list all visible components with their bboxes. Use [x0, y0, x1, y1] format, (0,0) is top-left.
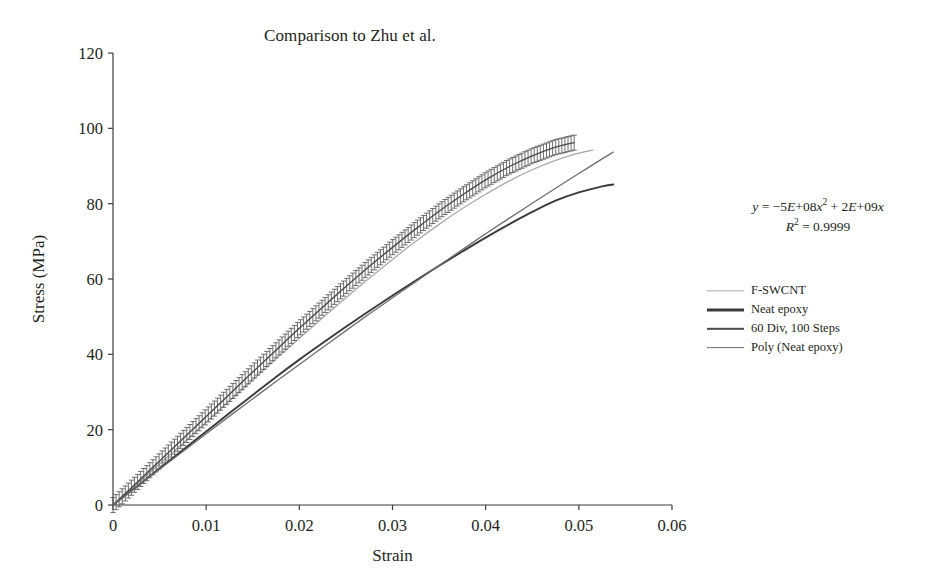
- equation-line-1: y = −5E+08x2 + 2E+09x: [718, 196, 918, 216]
- x-axis-tick-label: 0.05: [564, 516, 593, 535]
- chart-figure: Comparison to Zhu et al. 020406080100120…: [0, 0, 939, 583]
- legend-item[interactable]: Neat epoxy: [707, 300, 917, 319]
- error-bars-group: [110, 135, 576, 512]
- series-group: [110, 135, 613, 512]
- legend-item[interactable]: 60 Div, 100 Steps: [707, 319, 917, 338]
- series-neat-epoxy: [113, 184, 613, 505]
- series-60-div-100-steps: [110, 135, 576, 512]
- x-axis-tick-label: 0.03: [378, 516, 407, 535]
- x-axis-tick-label: 0.06: [658, 516, 687, 535]
- legend-item[interactable]: F-SWCNT: [707, 281, 917, 300]
- x-axis-tick-label: 0.01: [192, 516, 221, 535]
- y-axis-tick-label: 100: [78, 119, 103, 138]
- legend-item-label: F-SWCNT: [751, 283, 806, 298]
- legend-item-label: 60 Div, 100 Steps: [751, 321, 840, 336]
- y-axis-tick-label: 20: [87, 421, 104, 440]
- series-f-swcnt: [113, 150, 593, 505]
- x-axis-title: Strain: [372, 546, 413, 565]
- legend-item[interactable]: Poly (Neat epoxy): [707, 338, 917, 357]
- y-axis-tick-label: 60: [87, 270, 104, 289]
- y-axis-tick-label: 80: [87, 195, 104, 214]
- legend-item-label: Neat epoxy: [751, 302, 808, 317]
- y-axis-tick-label: 120: [78, 44, 103, 63]
- equation-line-2: R2 = 0.9999: [718, 216, 918, 236]
- y-axis-tick-label: 0: [95, 496, 103, 515]
- x-axis-tick-label: 0.02: [285, 516, 314, 535]
- y-axis-title: Stress (MPa): [29, 235, 48, 323]
- x-axis-tick-label: 0: [109, 516, 117, 535]
- series-line: [113, 152, 613, 505]
- trendline-equation-annotation: y = −5E+08x2 + 2E+09x R2 = 0.9999: [718, 196, 918, 236]
- series-poly-neat-epoxy: [113, 152, 613, 505]
- chart-legend: F-SWCNTNeat epoxy60 Div, 100 StepsPoly (…: [707, 281, 917, 357]
- y-axis-tick-label: 40: [87, 345, 104, 364]
- x-axis-tick-label: 0.04: [471, 516, 500, 535]
- legend-item-label: Poly (Neat epoxy): [751, 340, 843, 355]
- series-line: [113, 184, 613, 505]
- series-line: [113, 150, 593, 505]
